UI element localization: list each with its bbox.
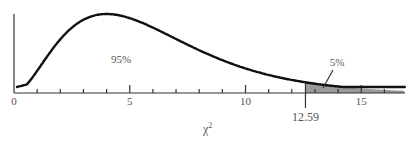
- x-axis-tick-labels: 051015: [11, 95, 367, 107]
- tick-label: 15: [356, 95, 368, 107]
- tick-label: 10: [240, 95, 252, 107]
- chi-square-chart: 051015 12.59 95% 5% χ2: [0, 0, 413, 146]
- tick-label: 0: [11, 95, 17, 107]
- x-axis-label: χ2: [202, 121, 212, 136]
- acceptance-region-label: 95%: [111, 53, 131, 65]
- rejection-region-label: 5%: [330, 56, 345, 68]
- critical-value-label: 12.59: [292, 110, 319, 124]
- density-curve: [17, 14, 405, 87]
- tick-label: 5: [127, 95, 133, 107]
- x-axis-label-superscript: 2: [208, 121, 212, 130]
